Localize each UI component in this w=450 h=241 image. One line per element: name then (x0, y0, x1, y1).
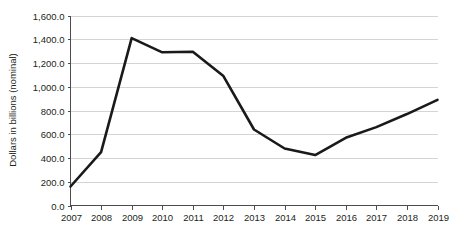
y-tick-label: 200.0 (41, 177, 65, 188)
y-tick-label: 1,400.0 (33, 34, 65, 45)
x-tick-label: 2011 (183, 212, 203, 223)
chart-background (0, 0, 450, 241)
x-tick-label: 2009 (122, 212, 143, 223)
y-axis-title: Dollars in billions (nominal) (7, 53, 18, 167)
line-chart: 0.0200.0400.0600.0800.01,000.01,200.01,4… (0, 0, 450, 241)
x-tick-label: 2014 (275, 212, 296, 223)
y-tick-label: 1,000.0 (33, 82, 65, 93)
y-tick-label: 1,200.0 (33, 58, 65, 69)
y-tick-label: 400.0 (41, 153, 65, 164)
x-tick-label: 2019 (428, 212, 449, 223)
x-tick-label: 2013 (244, 212, 265, 223)
x-tick-label: 2007 (61, 212, 82, 223)
x-tick-label: 2008 (91, 212, 112, 223)
x-tick-label: 2010 (152, 212, 173, 223)
x-tick-label: 2015 (305, 212, 326, 223)
y-tick-label: 600.0 (41, 129, 65, 140)
x-tick-label: 2017 (366, 212, 387, 223)
chart-canvas: 0.0200.0400.0600.0800.01,000.01,200.01,4… (0, 0, 450, 241)
y-tick-label: 800.0 (41, 106, 65, 117)
x-tick-label: 2012 (213, 212, 234, 223)
x-tick-label: 2018 (397, 212, 418, 223)
y-tick-label: 0.0 (51, 201, 64, 212)
y-tick-label: 1,600.0 (33, 11, 65, 22)
x-tick-label: 2016 (336, 212, 357, 223)
